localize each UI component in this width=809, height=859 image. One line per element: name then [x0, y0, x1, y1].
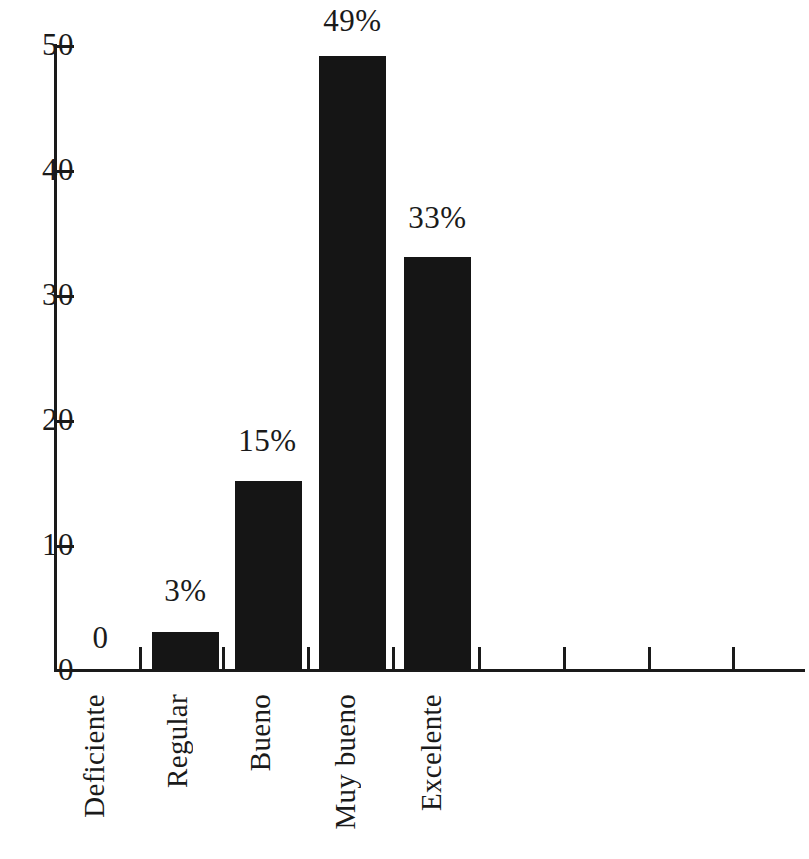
x-axis-category-label-muy-bueno: Muy bueno	[331, 694, 360, 830]
x-axis-tick-mark	[392, 647, 395, 670]
x-axis-category-label-deficiente: Deficiente	[80, 694, 109, 818]
x-axis-category-label-bueno: Bueno	[246, 694, 275, 771]
x-axis-tick-mark	[478, 647, 481, 670]
bar-value-label-regular: 3%	[140, 575, 231, 606]
x-axis-category-label-regular: Regular	[163, 694, 192, 788]
bar-value-label-deficiente: 0	[55, 622, 146, 653]
bar-excelente	[404, 257, 471, 670]
bar-regular	[152, 632, 219, 670]
bar-bueno	[235, 481, 302, 670]
x-axis-tick-mark	[732, 647, 735, 670]
bar-value-label-bueno: 15%	[222, 425, 313, 456]
y-axis-line	[54, 44, 57, 672]
x-axis-tick-mark	[222, 647, 225, 670]
y-tick-mark	[57, 170, 74, 173]
x-axis-tick-mark	[648, 647, 651, 670]
y-tick-mark	[57, 420, 74, 423]
bar-value-label-muy-bueno: 49%	[307, 5, 398, 36]
y-tick-mark	[57, 45, 74, 48]
x-axis-tick-mark	[307, 647, 310, 670]
y-tick-mark	[57, 295, 74, 298]
bar-muy-bueno	[319, 56, 386, 670]
x-axis-category-label-excelente: Excelente	[417, 694, 446, 811]
y-tick-mark	[57, 545, 74, 548]
x-axis-tick-mark	[563, 647, 566, 670]
bar-value-label-excelente: 33%	[392, 202, 483, 233]
bar-chart: 50 40 30 20 10 0 0 3% 15% 49% 33% Defici…	[0, 0, 809, 859]
